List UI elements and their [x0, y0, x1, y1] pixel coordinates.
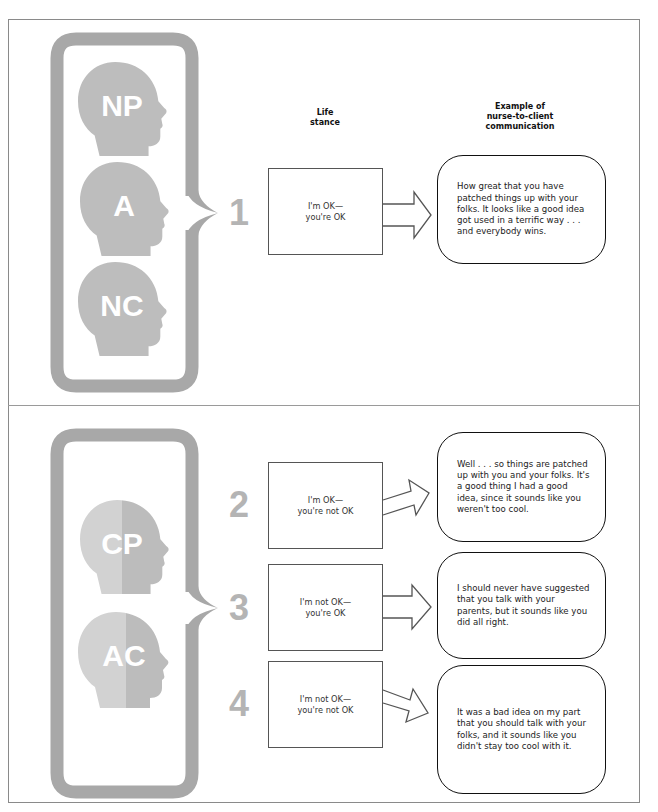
stance-box-2: I'm OK— you're not OK: [268, 462, 383, 549]
svg-text:NC: NC: [100, 289, 143, 322]
stance-box-4: I'm not OK— you're not OK: [268, 661, 383, 748]
arrow-1-icon: [382, 192, 431, 238]
stance-3-line2: you're OK: [300, 608, 351, 619]
head-np-icon: NP: [78, 62, 167, 156]
head-a-icon: A: [80, 162, 169, 256]
svg-text:NP: NP: [101, 89, 143, 122]
svg-text:A: A: [113, 189, 135, 222]
communication-text-3: I should never have suggested that you t…: [457, 583, 591, 628]
stance-2-line1: I'm OK—: [298, 495, 354, 506]
stance-number-2: 2: [229, 487, 249, 523]
head-ac-icon: AC: [70, 605, 196, 720]
stance-2-line2: you're not OK: [298, 506, 354, 517]
svg-text:CP: CP: [101, 527, 143, 560]
svg-text:AC: AC: [102, 639, 145, 672]
stance-box-1: I'm OK— you're OK: [268, 168, 383, 255]
header-example-line1: Example of: [465, 102, 575, 112]
head-nc-icon: NC: [78, 262, 167, 356]
stance-box-3: I'm not OK— you're OK: [268, 564, 383, 651]
stance-number-3: 3: [229, 590, 249, 626]
head-cp-icon: CP: [70, 495, 192, 605]
header-life-stance-line2: stance: [295, 118, 355, 128]
stance-4-line2: you're not OK: [298, 705, 354, 716]
communication-text-2: Well . . . so things are patched up with…: [457, 459, 591, 515]
speech-bubble-4: It was a bad idea on my part that you sh…: [437, 665, 606, 794]
stance-number-1: 1: [229, 195, 249, 231]
stance-1-line2: you're OK: [306, 212, 346, 223]
arrow-4-icon: [383, 689, 428, 722]
header-life-stance-line1: Life: [295, 108, 355, 118]
communication-text-1: How great that you have patched things u…: [457, 181, 591, 237]
stance-number-4: 4: [229, 686, 249, 722]
communication-text-4: It was a bad idea on my part that you sh…: [457, 707, 591, 752]
bottom-bracket-point: [186, 586, 218, 630]
stance-3-line1: I'm not OK—: [300, 597, 351, 608]
arrow-3-icon: [383, 585, 431, 629]
header-example-line2: nurse-to-client: [465, 112, 575, 122]
speech-bubble-2: Well . . . so things are patched up with…: [437, 432, 606, 542]
header-example-line3: communication: [465, 122, 575, 132]
header-life-stance: Life stance: [295, 108, 355, 128]
stance-1-line1: I'm OK—: [306, 201, 346, 212]
speech-bubble-1: How great that you have patched things u…: [437, 155, 606, 264]
top-bracket-point: [186, 190, 218, 236]
stance-4-line1: I'm not OK—: [298, 694, 354, 705]
speech-bubble-3: I should never have suggested that you t…: [437, 552, 606, 659]
header-example-communication: Example of nurse-to-client communication: [465, 102, 575, 132]
arrow-2-icon: [383, 480, 429, 515]
